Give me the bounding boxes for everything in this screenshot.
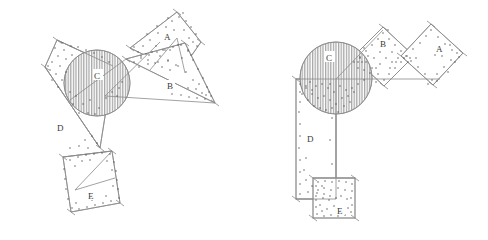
right-label-C: C (326, 53, 332, 63)
figure-canvas: A B C D E (0, 0, 488, 240)
left-shape-C (64, 50, 130, 116)
left-label-C: C (94, 71, 100, 81)
right-label-A: A (436, 44, 443, 54)
left-label-D: D (57, 123, 64, 133)
left-label-B: B (167, 81, 173, 91)
right-label-B: B (380, 39, 386, 49)
right-label-E: E (337, 206, 343, 216)
left-panel: A B C D E (41, 9, 219, 215)
right-shape-A (397, 21, 467, 88)
left-label-E: E (88, 191, 94, 201)
right-label-D: D (307, 134, 314, 144)
right-panel: A B C D E (292, 21, 467, 221)
diagram-svg: A B C D E (0, 0, 488, 240)
left-label-A: A (164, 32, 171, 42)
left-shape-E (59, 148, 124, 215)
